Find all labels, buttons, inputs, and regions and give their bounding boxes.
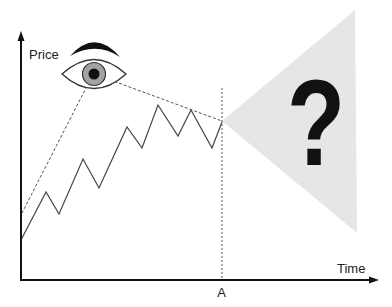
- marker-label: A: [217, 285, 226, 300]
- price-time-diagram: ? Price Time A: [0, 0, 392, 307]
- diagram-canvas: ? Price Time A: [0, 0, 392, 307]
- x-axis-label: Time: [337, 261, 365, 276]
- question-mark-icon: ?: [287, 55, 345, 191]
- pupil: [89, 69, 100, 80]
- y-axis-label: Price: [29, 47, 59, 62]
